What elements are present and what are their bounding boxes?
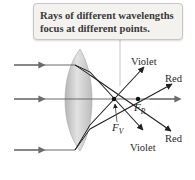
callout-text: Rays of different wavelengths focus at d…: [40, 9, 180, 35]
label-violet-top: Violet: [131, 56, 157, 67]
label-focal-violet: FV: [112, 121, 123, 136]
focal-point-violet: [112, 97, 116, 101]
label-red-bottom: Red: [165, 133, 182, 144]
label-focal-red: FR: [134, 101, 145, 116]
convex-lens: [65, 49, 92, 151]
label-violet-bottom: Violet: [130, 142, 156, 153]
label-red-top: Red: [165, 73, 182, 84]
callout-box: Rays of different wavelengths focus at d…: [33, 3, 183, 40]
